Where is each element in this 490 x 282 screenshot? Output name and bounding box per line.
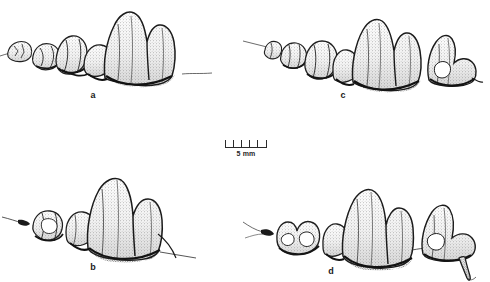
scale-bar-tick — [241, 140, 242, 148]
panel-d-illustration — [243, 178, 490, 282]
figure-plate: a — [0, 0, 490, 282]
panel-d: d — [243, 178, 490, 282]
scale-bar-line — [225, 147, 267, 148]
panel-label-d: d — [323, 266, 339, 276]
panel-b-illustration — [0, 172, 215, 272]
scale-bar-tick — [225, 140, 226, 148]
scale-bar: 5 mm — [225, 140, 267, 157]
scale-bar-tick — [266, 140, 267, 148]
panel-a-illustration — [0, 4, 215, 94]
scale-bar-ruler — [225, 140, 267, 148]
panel-label-c: c — [335, 90, 351, 100]
scale-bar-tick — [249, 140, 250, 148]
panel-a: a — [0, 4, 215, 94]
panel-c: c — [243, 8, 490, 94]
panel-c-illustration — [243, 8, 490, 94]
panel-label-a: a — [85, 90, 101, 100]
scale-bar-tick — [233, 140, 234, 148]
scale-bar-tick — [257, 140, 258, 148]
panel-label-b: b — [85, 262, 101, 272]
scale-bar-label: 5 mm — [225, 150, 267, 157]
panel-b: b — [0, 172, 215, 272]
